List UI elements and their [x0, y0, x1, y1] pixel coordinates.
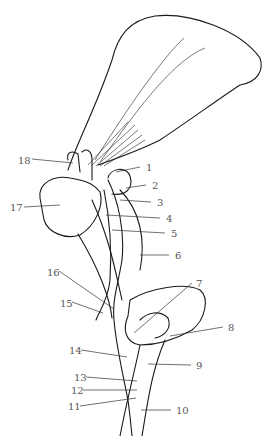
label-12: 12: [71, 385, 84, 396]
label-18: 18: [18, 155, 31, 166]
diagram-drawing: 1 2 3 4 5 6 7 8 9 10 11 12 13 14 15 16 1…: [0, 0, 274, 436]
muscle-fibers: [88, 122, 145, 166]
humeral-head: [40, 177, 101, 236]
olecranon: [140, 313, 169, 338]
scapula-spine: [95, 38, 205, 162]
humerus-shaft: [78, 200, 122, 318]
label-6: 6: [175, 250, 181, 261]
label-1: 1: [146, 162, 152, 173]
scapula-outline: [68, 15, 261, 170]
label-3: 3: [157, 197, 163, 208]
vessel-loop: [108, 169, 131, 194]
leader-lines: [24, 159, 223, 410]
label-15: 15: [60, 298, 73, 309]
label-14: 14: [69, 345, 82, 356]
label-10: 10: [176, 405, 189, 416]
label-16: 16: [47, 267, 60, 278]
label-17: 17: [10, 202, 23, 213]
label-13: 13: [74, 372, 87, 383]
label-4: 4: [166, 213, 172, 224]
label-9: 9: [196, 360, 202, 371]
label-7: 7: [196, 278, 202, 289]
forearm: [120, 340, 165, 436]
anatomical-diagram: 1 2 3 4 5 6 7 8 9 10 11 12 13 14 15 16 1…: [0, 0, 274, 436]
label-8: 8: [228, 322, 234, 333]
nerve-branch: [96, 190, 142, 320]
label-2: 2: [152, 180, 158, 191]
label-11: 11: [68, 401, 81, 412]
label-5: 5: [171, 228, 177, 239]
